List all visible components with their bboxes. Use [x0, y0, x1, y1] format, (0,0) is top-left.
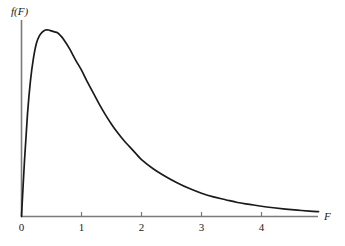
x-axis-tick-label: 3	[192, 222, 212, 233]
chart-plot-area	[0, 0, 345, 246]
x-axis-tick-label: 4	[252, 222, 272, 233]
axes-group	[21, 20, 318, 217]
y-axis-label: f(F)	[11, 6, 28, 17]
x-axis-tick-label: 2	[132, 222, 152, 233]
x-axis-tick-label: 1	[72, 222, 92, 233]
density-curve	[22, 30, 319, 217]
x-axis-label: F	[324, 211, 331, 222]
x-axis-tick-label: 0	[12, 222, 32, 233]
chart-figure: f(F) F 01234	[0, 0, 345, 246]
